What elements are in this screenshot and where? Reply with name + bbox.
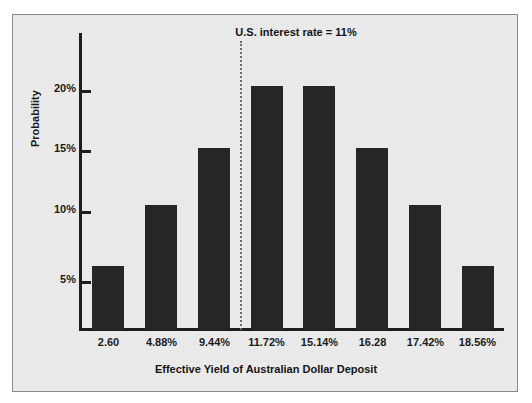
us-interest-rate-line <box>240 41 242 330</box>
y-tick-label-10: 10% <box>54 203 76 215</box>
chart-figure: Probability 20% 15% 10% 5% 2.60 4.88% 9.… <box>12 14 518 392</box>
bar-1 <box>145 205 177 330</box>
y-tick-label-5: 5% <box>60 273 76 285</box>
x-tick-label-0: 2.60 <box>82 336 135 348</box>
y-axis-line <box>79 33 82 330</box>
x-axis-title: Effective Yield of Australian Dollar Dep… <box>13 363 519 375</box>
x-tick-label-2: 9.44% <box>188 336 241 348</box>
x-tick-label-7: 18.56% <box>451 336 504 348</box>
bar-6 <box>409 205 441 330</box>
bar-4 <box>303 86 335 330</box>
x-tick-label-3: 11.72% <box>240 336 293 348</box>
x-tick-label-5: 16.28 <box>346 336 399 348</box>
y-axis-title: Probability <box>29 90 41 147</box>
bar-3 <box>251 86 283 330</box>
y-tick-5: 5% <box>82 281 91 284</box>
bar-2 <box>198 148 230 330</box>
y-tick-label-20: 20% <box>54 82 76 94</box>
y-tick-label-15: 15% <box>54 142 76 154</box>
x-tick-label-1: 4.88% <box>135 336 188 348</box>
bar-7 <box>462 266 494 330</box>
y-tick-10: 10% <box>82 211 91 214</box>
x-tick-label-4: 15.14% <box>293 336 346 348</box>
y-tick-20: 20% <box>82 90 91 93</box>
y-tick-15: 15% <box>82 150 91 153</box>
us-interest-rate-label: U.S. interest rate = 11% <box>235 26 356 38</box>
bar-0 <box>92 266 124 330</box>
plot-area: Probability 20% 15% 10% 5% 2.60 4.88% 9.… <box>13 15 519 393</box>
bar-5 <box>356 148 388 330</box>
x-tick-label-6: 17.42% <box>399 336 452 348</box>
